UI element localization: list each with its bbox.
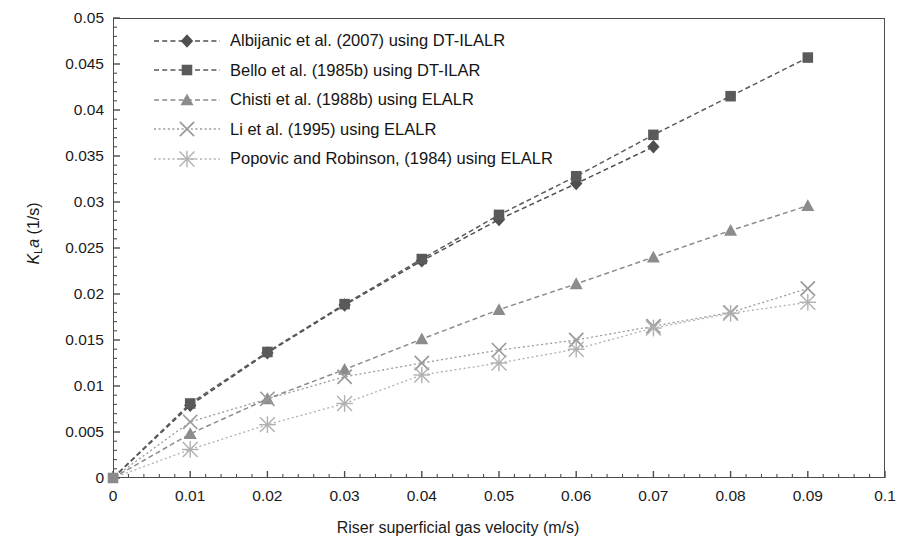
y-axis-title-k: K <box>25 254 42 265</box>
legend-label: Popovic and Robinson, (1984) using ELALR <box>224 149 553 168</box>
data-point <box>336 395 353 412</box>
data-point <box>724 224 737 236</box>
data-point <box>339 299 350 310</box>
x-tick-label: 0.06 <box>536 488 616 504</box>
data-point <box>570 277 583 289</box>
y-tick-label: 0.035 <box>0 148 104 164</box>
data-point <box>259 416 276 433</box>
y-axis-title-sub: L <box>32 248 44 254</box>
origin-marker <box>108 473 119 484</box>
data-point <box>182 441 199 458</box>
data-point <box>262 347 273 358</box>
data-point <box>184 427 197 439</box>
x-tick-label: 0.07 <box>613 488 693 504</box>
legend-marker-cross-icon <box>150 117 224 141</box>
y-axis-title-unit: (1/s) <box>25 202 42 238</box>
series-2 <box>113 199 814 478</box>
x-tick-label: 0.05 <box>459 488 539 504</box>
y-tick-label: 0.02 <box>0 286 104 302</box>
legend: Albijanic et al. (2007) using DT-ILALRBe… <box>150 26 553 174</box>
x-tick-label: 0.03 <box>305 488 385 504</box>
data-point <box>492 303 505 315</box>
data-point <box>417 254 428 265</box>
y-tick-label: 0.015 <box>0 332 104 348</box>
data-point <box>491 355 508 372</box>
legend-marker-triangle-icon <box>150 88 224 112</box>
legend-label: Li et al. (1995) using ELALR <box>224 120 436 139</box>
legend-marker-diamond-icon <box>150 29 224 53</box>
data-point <box>803 52 814 63</box>
data-point <box>722 305 739 322</box>
series-3 <box>113 281 815 478</box>
data-point <box>648 130 659 141</box>
x-tick-label: 0.08 <box>691 488 771 504</box>
legend-label: Chisti et al. (1988b) using ELALR <box>224 90 474 109</box>
y-tick-label: 0.045 <box>0 56 104 72</box>
data-point <box>645 320 662 337</box>
y-tick-label: 0.04 <box>0 102 104 118</box>
x-tick-label: 0.09 <box>768 488 848 504</box>
y-tick-label: 0.005 <box>0 424 104 440</box>
x-tick-label: 0.02 <box>227 488 307 504</box>
data-point <box>568 341 585 358</box>
data-point <box>183 415 197 429</box>
y-axis-title: KLa (1/s) <box>25 154 44 314</box>
legend-item[interactable]: Bello et al. (1985b) using DT-ILAR <box>150 56 553 86</box>
x-tick-label: 0.01 <box>150 488 230 504</box>
data-point <box>413 367 430 384</box>
y-axis-title-a: a <box>25 239 42 248</box>
legend-label: Bello et al. (1985b) using DT-ILAR <box>224 61 480 80</box>
data-point <box>799 294 816 311</box>
y-tick-label: 0.025 <box>0 240 104 256</box>
data-point <box>801 199 814 211</box>
legend-item[interactable]: Popovic and Robinson, (1984) using ELALR <box>150 144 553 174</box>
data-point <box>415 333 428 345</box>
legend-label: Albijanic et al. (2007) using DT-ILALR <box>224 31 505 50</box>
x-tick-label: 0.04 <box>382 488 462 504</box>
figure: 00.0050.010.0150.020.0250.030.0350.040.0… <box>0 0 916 560</box>
y-tick-label: 0.01 <box>0 378 104 394</box>
legend-marker-square-icon <box>150 58 224 82</box>
data-point <box>571 171 582 182</box>
y-tick-label: 0.05 <box>0 10 104 26</box>
data-point <box>494 210 505 221</box>
data-point <box>647 140 659 153</box>
legend-item[interactable]: Albijanic et al. (2007) using DT-ILALR <box>150 26 553 56</box>
legend-item[interactable]: Li et al. (1995) using ELALR <box>150 115 553 145</box>
x-axis-title: Riser superficial gas velocity (m/s) <box>0 519 916 537</box>
data-point <box>725 91 736 102</box>
data-point <box>647 251 660 263</box>
data-point <box>185 398 196 409</box>
y-tick-label: 0.03 <box>0 194 104 210</box>
legend-item[interactable]: Chisti et al. (1988b) using ELALR <box>150 85 553 115</box>
x-tick-label: 0.1 <box>845 488 916 504</box>
y-tick-label: 0 <box>0 470 104 486</box>
data-point <box>801 281 815 295</box>
legend-marker-asterisk-icon <box>150 147 224 171</box>
x-tick-label: 0 <box>73 488 153 504</box>
